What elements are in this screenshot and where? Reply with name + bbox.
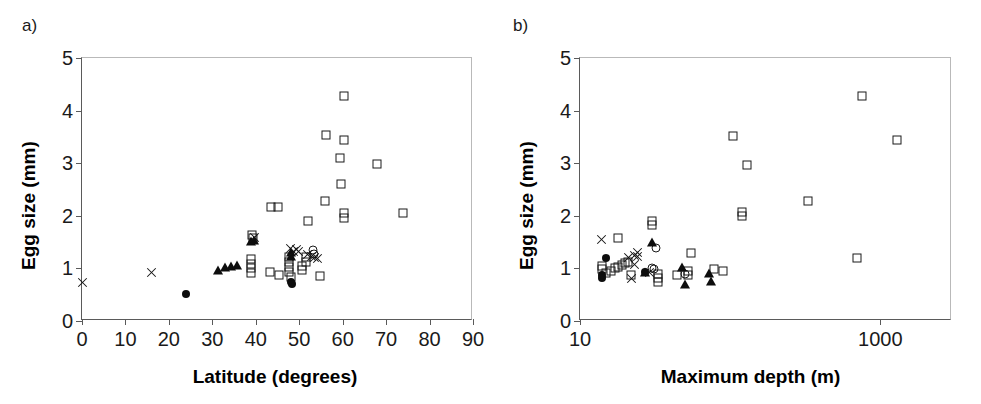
marker-open-square xyxy=(398,209,407,218)
marker-open-square xyxy=(247,268,256,277)
marker-open-square xyxy=(893,136,902,145)
marker-cross xyxy=(626,273,637,284)
x-tick-label: 40 xyxy=(245,328,267,351)
marker-open-square xyxy=(322,131,331,140)
y-tick-mark xyxy=(76,111,82,112)
x-tick-mark xyxy=(880,319,881,325)
marker-cross xyxy=(77,277,88,288)
y-tick-label: 5 xyxy=(62,47,73,70)
marker-open-square xyxy=(743,160,752,169)
marker-open-square xyxy=(336,180,345,189)
marker-open-square xyxy=(614,233,623,242)
x-tick-label: 90 xyxy=(462,328,484,351)
marker-cross xyxy=(632,247,643,258)
panel-b-plot-area: 012345101000 xyxy=(579,57,951,320)
y-tick-label: 1 xyxy=(62,257,73,280)
y-tick-mark xyxy=(76,58,82,59)
marker-cross xyxy=(146,267,157,278)
x-tick-mark xyxy=(386,319,387,325)
marker-cross xyxy=(249,232,260,243)
marker-filled-triangle xyxy=(647,238,657,247)
marker-cross xyxy=(644,267,655,278)
marker-open-square xyxy=(273,202,282,211)
marker-open-square xyxy=(303,217,312,226)
y-tick-mark xyxy=(574,111,580,112)
y-tick-label: 2 xyxy=(62,204,73,227)
panel-a-plot-area: 0123450102030405060708090 xyxy=(81,57,472,320)
figure: a) 0123450102030405060708090 Latitude (d… xyxy=(0,0,981,404)
marker-filled-triangle xyxy=(680,280,690,289)
y-tick-label: 3 xyxy=(560,152,571,175)
x-tick-mark xyxy=(169,319,170,325)
y-tick-label: 2 xyxy=(560,204,571,227)
panel-b-x-axis-title: Maximum depth (m) xyxy=(490,366,981,388)
y-tick-label: 4 xyxy=(560,99,571,122)
marker-cross xyxy=(596,234,607,245)
x-tick-mark xyxy=(212,319,213,325)
marker-open-square xyxy=(339,136,348,145)
marker-open-square xyxy=(321,197,330,206)
marker-open-square xyxy=(719,267,728,276)
y-tick-mark xyxy=(574,58,580,59)
y-tick-label: 0 xyxy=(62,310,73,333)
x-tick-label: 20 xyxy=(158,328,180,351)
marker-open-square xyxy=(372,159,381,168)
x-tick-label: 80 xyxy=(418,328,440,351)
x-tick-label: 30 xyxy=(201,328,223,351)
panel-a-y-axis-title: Egg size (mm) xyxy=(18,141,40,270)
y-tick-label: 5 xyxy=(560,47,571,70)
y-tick-mark xyxy=(76,216,82,217)
marker-open-square xyxy=(316,272,325,281)
panel-a: a) 0123450102030405060708090 Latitude (d… xyxy=(0,0,490,404)
y-tick-mark xyxy=(76,268,82,269)
marker-filled-circle xyxy=(288,280,296,288)
marker-open-square xyxy=(858,92,867,101)
panel-b-label: b) xyxy=(513,16,528,36)
x-tick-mark xyxy=(343,319,344,325)
marker-filled-circle xyxy=(598,274,606,282)
marker-open-square xyxy=(297,265,306,274)
x-tick-label: 1000 xyxy=(858,328,903,351)
marker-open-square xyxy=(336,154,345,163)
y-tick-label: 3 xyxy=(62,152,73,175)
panel-b-y-axis-title: Egg size (mm) xyxy=(516,141,538,270)
marker-open-square xyxy=(687,248,696,257)
marker-open-square xyxy=(729,131,738,140)
marker-open-square xyxy=(340,92,349,101)
x-tick-mark xyxy=(82,319,83,325)
x-tick-mark xyxy=(473,319,474,325)
marker-open-square xyxy=(647,221,656,230)
marker-open-square xyxy=(653,277,662,286)
y-tick-mark xyxy=(76,163,82,164)
marker-open-square xyxy=(339,213,348,222)
marker-open-square xyxy=(265,268,274,277)
marker-open-square xyxy=(738,211,747,220)
panel-a-x-axis-title: Latitude (degrees) xyxy=(0,366,490,388)
marker-filled-triangle xyxy=(677,263,687,272)
x-tick-label: 50 xyxy=(288,328,310,351)
x-tick-mark xyxy=(580,319,581,325)
marker-filled-triangle xyxy=(232,260,242,269)
x-tick-mark xyxy=(256,319,257,325)
x-tick-mark xyxy=(299,319,300,325)
marker-cross xyxy=(312,253,323,264)
marker-cross xyxy=(629,259,640,270)
panel-b: b) 012345101000 Maximum depth (m) Egg si… xyxy=(490,0,981,404)
marker-open-square xyxy=(853,253,862,262)
x-tick-label: 10 xyxy=(569,328,591,351)
y-tick-mark xyxy=(574,163,580,164)
x-tick-label: 60 xyxy=(332,328,354,351)
marker-open-square xyxy=(804,197,813,206)
marker-filled-triangle xyxy=(706,276,716,285)
marker-filled-circle xyxy=(182,290,190,298)
y-tick-label: 4 xyxy=(62,99,73,122)
x-tick-mark xyxy=(125,319,126,325)
x-tick-label: 10 xyxy=(114,328,136,351)
marker-open-square xyxy=(274,270,283,279)
y-tick-mark xyxy=(574,268,580,269)
x-tick-label: 70 xyxy=(375,328,397,351)
x-tick-mark xyxy=(430,319,431,325)
y-tick-mark xyxy=(574,216,580,217)
y-tick-label: 1 xyxy=(560,257,571,280)
panel-a-label: a) xyxy=(22,16,37,36)
